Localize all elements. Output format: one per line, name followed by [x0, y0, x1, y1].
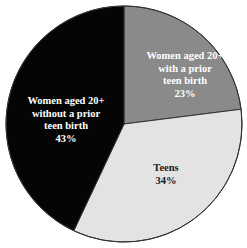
label-line: teen birth [146, 75, 223, 88]
label-without-prior-teen-birth: Women aged 20+ without a prior teen birt… [27, 95, 104, 145]
label-percent: 34% [153, 175, 178, 188]
label-line: Teens [153, 162, 178, 175]
label-line: without a prior [27, 108, 104, 121]
label-line: teen birth [27, 120, 104, 133]
label-line: Women aged 20+ [146, 50, 223, 63]
label-percent: 43% [27, 133, 104, 146]
label-teens: Teens 34% [153, 162, 178, 187]
label-with-prior-teen-birth: Women aged 20+ with a prior teen birth 2… [146, 50, 223, 100]
label-line: Women aged 20+ [27, 95, 104, 108]
label-line: with a prior [146, 63, 223, 76]
label-percent: 23% [146, 88, 223, 101]
